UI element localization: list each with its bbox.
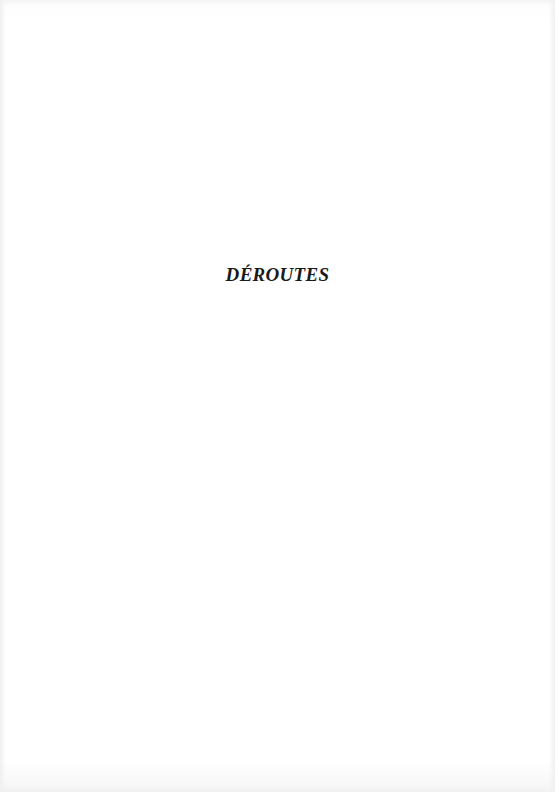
page-title: DÉROUTES — [0, 263, 555, 287]
page-edge-left — [0, 0, 6, 792]
page-edge-right — [549, 0, 555, 792]
book-page: DÉROUTES — [0, 0, 555, 792]
